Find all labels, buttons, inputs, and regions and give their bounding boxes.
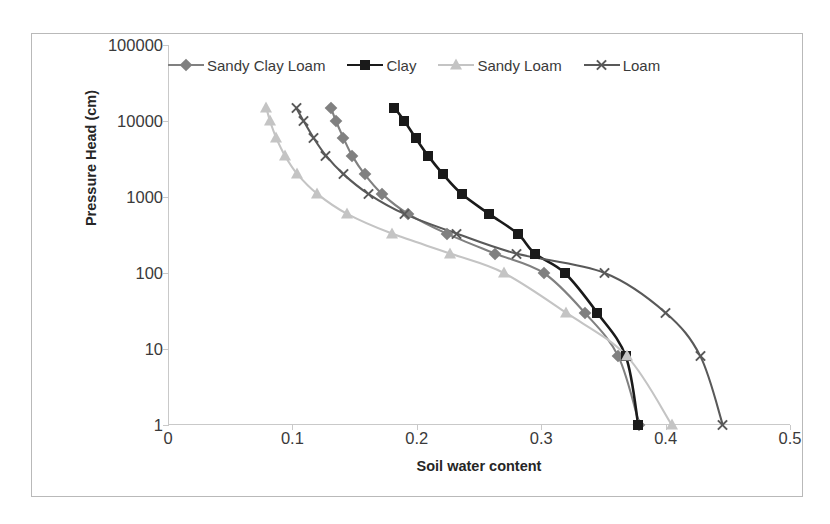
data-point-clay (399, 116, 409, 126)
series-line-sandy-clay-loam (331, 108, 640, 425)
legend-marker-square-icon (360, 60, 370, 70)
data-point-clay (560, 268, 570, 278)
data-point-clay (411, 133, 421, 143)
data-point-loam (659, 306, 672, 319)
data-point-clay (513, 229, 523, 239)
y-tick-label: 1 (8, 416, 163, 435)
y-tick-label: 100000 (8, 36, 163, 55)
y-tick-label: 100 (8, 264, 163, 283)
x-tick-label: 0.4 (654, 429, 677, 448)
data-point-sandy-loam (560, 306, 572, 317)
legend-item-sandy-loam[interactable]: Sandy Loam (438, 57, 561, 74)
x-tick-label: 0.2 (405, 429, 428, 448)
data-point-loam (450, 227, 463, 240)
data-point-loam (307, 131, 320, 144)
legend-marker-diamond-icon (180, 59, 193, 72)
y-axis-label: Pressure Head (cm) (83, 58, 99, 258)
data-point-clay (530, 249, 540, 259)
data-point-sandy-loam (260, 101, 272, 112)
data-point-loam (716, 419, 729, 432)
data-point-sandy-loam (386, 227, 398, 238)
legend-item-sandy-clay-loam[interactable]: Sandy Clay Loam (168, 57, 325, 74)
x-tick-mark (417, 425, 418, 430)
data-point-sandy-loam (311, 187, 323, 198)
legend-swatch (347, 58, 383, 72)
legend-swatch (168, 58, 204, 72)
legend-label: Sandy Clay Loam (207, 57, 325, 74)
y-tick-mark (163, 425, 169, 426)
legend-swatch (438, 58, 474, 72)
data-point-loam (398, 207, 411, 220)
plot-area (168, 45, 790, 425)
x-tick-label: 0.1 (281, 429, 304, 448)
data-point-loam (598, 267, 611, 280)
data-point-clay (592, 308, 602, 318)
x-tick-label: 0 (163, 429, 172, 448)
x-tick-label: 0.5 (779, 429, 802, 448)
x-tick-mark (541, 425, 542, 430)
legend-marker-x-icon (595, 59, 608, 72)
legend-label: Clay (386, 57, 416, 74)
data-point-sandy-loam (291, 168, 303, 179)
data-point-clay (457, 189, 467, 199)
data-point-loam (362, 187, 375, 200)
data-point-clay (438, 169, 448, 179)
x-tick-label: 0.3 (530, 429, 553, 448)
data-point-sandy-loam (264, 114, 276, 125)
y-axis-ticks: 100000100001000100101 (0, 0, 163, 524)
legend-label: Loam (623, 57, 661, 74)
data-point-sandy-loam (270, 131, 282, 142)
x-tick-mark (790, 425, 791, 430)
legend-swatch (584, 58, 620, 72)
data-point-loam (510, 247, 523, 260)
legend-marker-triangle-icon (450, 58, 462, 69)
data-point-loam (290, 101, 303, 114)
data-point-sandy-loam (498, 266, 510, 277)
data-point-loam (319, 149, 332, 162)
data-point-sandy-loam (444, 247, 456, 258)
legend-item-loam[interactable]: Loam (584, 57, 661, 74)
x-axis-label: Soil water content (168, 458, 790, 474)
data-point-clay (389, 103, 399, 113)
data-point-loam (694, 350, 707, 363)
data-point-clay (633, 420, 643, 430)
data-point-loam (337, 168, 350, 181)
data-point-clay (484, 209, 494, 219)
data-point-clay (423, 151, 433, 161)
data-point-sandy-loam (666, 418, 678, 429)
y-tick-label: 10 (8, 340, 163, 359)
chart-figure: 100000100001000100101 00.10.20.30.40.5 P… (0, 0, 830, 524)
chart-legend: Sandy Clay LoamClaySandy LoamLoam (168, 52, 790, 78)
data-point-sandy-loam (341, 207, 353, 218)
legend-item-clay[interactable]: Clay (347, 57, 416, 74)
data-point-loam (297, 115, 310, 128)
x-tick-mark (292, 425, 293, 430)
legend-label: Sandy Loam (477, 57, 561, 74)
data-point-sandy-loam (621, 350, 633, 361)
data-point-sandy-loam (279, 149, 291, 160)
